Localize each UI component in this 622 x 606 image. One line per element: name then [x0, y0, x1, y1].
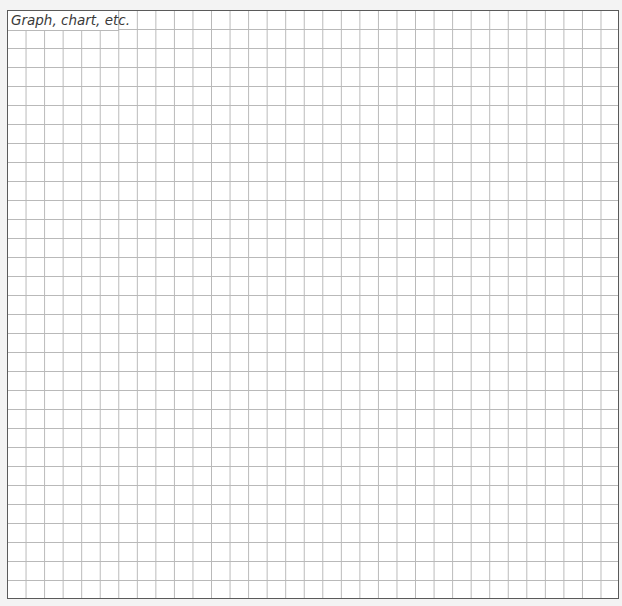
graph-area-label: Graph, chart, etc. [8, 11, 119, 31]
graph-paper-area: Graph, chart, etc. [7, 10, 619, 599]
